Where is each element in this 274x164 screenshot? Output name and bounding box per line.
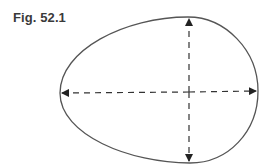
egg-outline xyxy=(60,17,258,163)
horizontal-axis-left xyxy=(62,92,189,93)
egg-diagram xyxy=(0,0,274,164)
horizontal-axis-right xyxy=(189,91,256,92)
